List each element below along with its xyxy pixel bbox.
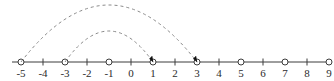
- open-circle-marker: [238, 59, 244, 65]
- open-circle-marker: [326, 59, 332, 65]
- tick-label: -1: [104, 68, 113, 79]
- outer-arc-path: [21, 5, 197, 62]
- tick-label: 1: [150, 68, 156, 79]
- tick-label: -4: [38, 68, 47, 79]
- number-line-figure: -5-4-3-2-10123456789: [0, 0, 334, 81]
- open-circle-marker: [282, 59, 288, 65]
- tick-label: -5: [16, 68, 25, 79]
- tick-label: -2: [82, 68, 91, 79]
- tick-label: 0: [128, 68, 134, 79]
- tick-label: 5: [238, 68, 244, 79]
- tick-label: 6: [260, 68, 266, 79]
- open-circle-marker: [106, 59, 112, 65]
- tick-label: 4: [216, 68, 222, 79]
- arcs-group: [21, 5, 197, 62]
- tick-label: -3: [60, 68, 69, 79]
- tick-label: 8: [304, 68, 310, 79]
- tick-label: 9: [326, 68, 332, 79]
- tick-label: 2: [172, 68, 178, 79]
- inner-arc-path: [65, 31, 153, 62]
- tick-label: 7: [282, 68, 288, 79]
- tick-label: 3: [194, 68, 200, 79]
